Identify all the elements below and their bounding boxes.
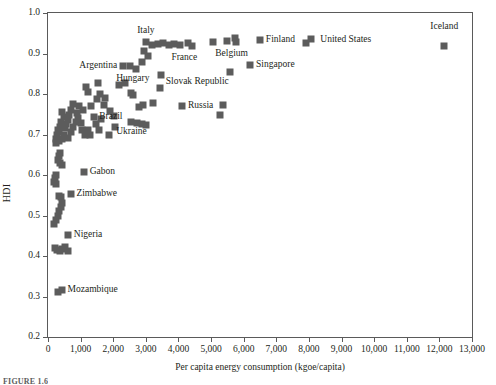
- y-axis-tick: [43, 54, 48, 55]
- point-label-united-states: United States: [320, 35, 371, 45]
- data-point: [220, 102, 227, 109]
- y-axis-tick-label: 0.6: [28, 170, 40, 180]
- point-label-iceland: Iceland: [430, 22, 458, 32]
- figure-container: HDI IcelandUnited StatesFinlandBelgiumSi…: [0, 0, 496, 385]
- data-point-nigeria: [65, 231, 72, 238]
- point-label-nigeria: Nigeria: [74, 230, 103, 240]
- data-point: [87, 103, 94, 110]
- x-axis-tick-label: 2,000: [103, 345, 124, 355]
- x-axis-tick-label: 4,000: [168, 345, 189, 355]
- point-label-zimbabwe: Zimbabwe: [76, 190, 117, 200]
- data-point: [106, 132, 113, 139]
- data-point-gabon: [80, 169, 87, 176]
- y-axis-tick-label: 0.8: [28, 89, 40, 99]
- data-point: [53, 180, 60, 187]
- y-axis-tick: [43, 297, 48, 298]
- plot-area: IcelandUnited StatesFinlandBelgiumSingap…: [47, 12, 473, 338]
- data-point: [64, 248, 71, 255]
- data-point: [302, 40, 309, 47]
- data-point-zimbabwe: [67, 191, 74, 198]
- data-point: [216, 112, 223, 119]
- y-axis-title: HDI: [1, 183, 12, 202]
- x-axis-tick-label: 10,000: [361, 345, 387, 355]
- x-axis-tick: [309, 337, 310, 342]
- data-point-italy: [143, 39, 150, 46]
- y-axis-tick-label: 0.4: [28, 251, 40, 261]
- y-axis-tick-label: 0.2: [28, 332, 40, 342]
- x-axis-tick: [178, 337, 179, 342]
- data-point: [94, 79, 101, 86]
- point-label-argentina: Argentina: [79, 62, 117, 72]
- data-point: [155, 40, 162, 47]
- y-axis-tick-label: 0.5: [28, 211, 40, 221]
- x-axis-tick: [48, 337, 49, 342]
- x-axis-tick-label: 8,000: [298, 345, 319, 355]
- scatter-canvas: IcelandUnited StatesFinlandBelgiumSingap…: [48, 13, 472, 337]
- data-point: [226, 68, 233, 75]
- x-axis-tick: [244, 337, 245, 342]
- x-axis-title: Per capita energy consumption (kgoe/capi…: [47, 362, 473, 372]
- data-point: [177, 41, 184, 48]
- x-axis-tick-label: 13,000: [459, 345, 485, 355]
- x-axis-tick-label: 0: [46, 345, 51, 355]
- x-axis-tick: [81, 337, 82, 342]
- data-point-russia: [179, 103, 186, 110]
- data-point: [102, 95, 109, 102]
- x-axis-tick-label: 11,000: [394, 345, 420, 355]
- point-label-brazil: Brazil: [99, 113, 122, 123]
- x-axis-tick-label: 9,000: [331, 345, 352, 355]
- data-point-slovak-republic: [157, 71, 164, 78]
- point-label-mozambique: Mozambique: [68, 286, 118, 296]
- data-point: [156, 84, 163, 91]
- x-axis-tick-label: 1,000: [70, 345, 91, 355]
- data-point-argentina: [120, 63, 127, 70]
- x-axis-tick: [407, 337, 408, 342]
- y-axis-tick: [43, 135, 48, 136]
- y-axis-tick: [43, 94, 48, 95]
- x-axis-tick-label: 6,000: [233, 345, 254, 355]
- data-point-singapore: [247, 61, 254, 68]
- x-axis-tick: [276, 337, 277, 342]
- data-point: [130, 92, 137, 99]
- point-label-singapore: Singapore: [256, 60, 295, 70]
- data-point: [185, 40, 192, 47]
- x-axis-tick: [374, 337, 375, 342]
- data-point: [149, 99, 156, 106]
- point-label-ukraine: Ukraine: [116, 127, 147, 137]
- x-axis-tick-label: 5,000: [200, 345, 221, 355]
- x-axis-tick-label: 3,000: [135, 345, 156, 355]
- x-axis-tick: [211, 337, 212, 342]
- data-point: [224, 37, 231, 44]
- point-label-russia: Russia: [188, 101, 213, 111]
- data-point: [59, 109, 66, 116]
- x-axis-tick: [342, 337, 343, 342]
- data-point: [58, 161, 65, 168]
- data-point-finland: [257, 36, 264, 43]
- x-axis-tick: [439, 337, 440, 342]
- point-label-france: France: [171, 53, 197, 63]
- x-axis-tick: [146, 337, 147, 342]
- data-point: [136, 103, 143, 110]
- y-axis-tick: [43, 256, 48, 257]
- x-axis-tick-label: 7,000: [266, 345, 287, 355]
- y-axis-tick: [43, 175, 48, 176]
- point-label-slovak-republic: Slovak Republic: [166, 77, 229, 87]
- data-point: [144, 53, 151, 60]
- figure-caption: FIGURE 1.6: [3, 377, 48, 385]
- point-label-finland: Finland: [266, 35, 295, 45]
- data-point: [54, 289, 61, 296]
- data-point: [209, 39, 216, 46]
- data-point: [231, 35, 238, 42]
- data-point: [93, 95, 100, 102]
- y-axis-tick-label: 0.7: [28, 130, 40, 140]
- data-point: [95, 126, 102, 133]
- y-axis-tick-label: 0.3: [28, 292, 40, 302]
- y-axis-tick-label: 1.0: [28, 8, 40, 18]
- x-axis-tick: [113, 337, 114, 342]
- point-label-gabon: Gabon: [90, 167, 115, 177]
- y-axis-tick-label: 0.9: [28, 49, 40, 59]
- data-point: [84, 88, 91, 95]
- data-point-iceland: [441, 43, 448, 50]
- point-label-belgium: Belgium: [215, 50, 248, 60]
- data-point: [127, 62, 134, 69]
